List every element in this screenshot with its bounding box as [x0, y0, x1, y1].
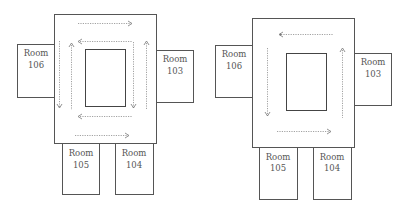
room-105-label-line1: Room — [69, 148, 94, 158]
room-104-label-line2: 104 — [324, 163, 340, 173]
room-103-label-line2: 103 — [365, 69, 381, 79]
room-104-label-line1: Room — [320, 152, 345, 162]
room-105-label-line2: 105 — [270, 163, 286, 173]
floor-plans-figure: Room 106 Room 103 Room 105 Room 104 — [0, 0, 408, 209]
right-floor-plan: Room 106 Room 103 Room 105 Room 104 — [216, 19, 392, 200]
left-floor-plan: Room 106 Room 103 Room 105 Room 104 — [18, 15, 194, 195]
room-106-label-line1: Room — [24, 48, 49, 58]
room-106-label-line2: 106 — [28, 60, 44, 70]
room-106-label-line1: Room — [222, 49, 247, 59]
room-103-label-line1: Room — [361, 57, 386, 67]
room-104-label-line2: 104 — [126, 160, 142, 170]
central-core — [86, 50, 126, 107]
room-105-label-line2: 105 — [73, 160, 89, 170]
room-104-label-line1: Room — [122, 148, 147, 158]
room-106-label-line2: 106 — [226, 61, 242, 71]
room-103-label-line1: Room — [163, 54, 188, 64]
room-105-label-line1: Room — [266, 152, 291, 162]
room-103-label-line2: 103 — [167, 66, 183, 76]
central-core — [287, 54, 327, 111]
